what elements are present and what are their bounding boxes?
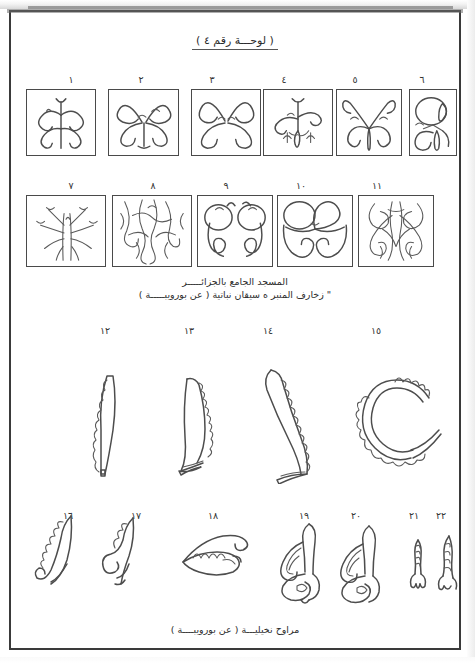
scan-edge-right (467, 0, 475, 663)
ornament-number-7: ٧ (68, 180, 73, 191)
ornament-box-9 (197, 195, 273, 267)
ornament-box-8 (112, 195, 192, 267)
scan-edge-bottom (0, 657, 475, 663)
small-number-18: ١٨ (208, 510, 218, 521)
ornament-box-5 (336, 89, 402, 156)
ornament-number-3: ٣ (209, 74, 214, 85)
ornament-box-10 (277, 195, 353, 267)
leaf-number-13: ١٣ (184, 325, 194, 336)
page-border-frame: ( لوحـــة رقم ٤ ) ١ ٢ ٣ ٤ ٥ ٦ (9, 10, 461, 650)
leaf-motif-15 (355, 372, 443, 472)
ornament-number-11: ١١ (372, 180, 382, 191)
ornament-box-6 (409, 89, 457, 156)
ornament-box-7 (26, 195, 106, 267)
plate-caption-line-2: " زخارف المنبر ﻩ سيقان نباتية ( عن بوروي… (11, 289, 459, 300)
ornament-box-1 (26, 89, 96, 156)
leaf-motif-14 (251, 362, 321, 484)
leaf-motif-12 (83, 370, 129, 480)
small-motif-20 (333, 520, 389, 606)
ornament-number-10: ١٠ (296, 180, 306, 191)
ornament-number-2: ٢ (138, 74, 143, 85)
plate-caption-line-1: المسجد الجامع بالجزائـــــر (11, 276, 459, 287)
small-motif-16 (33, 512, 81, 592)
ornament-number-5: ٥ (352, 74, 357, 85)
small-motif-18 (179, 530, 255, 582)
small-number-21: ٢١ (409, 510, 419, 521)
small-motif-19 (275, 520, 331, 606)
ornament-box-11 (358, 195, 434, 267)
plate-title: ( لوحـــة رقم ٤ ) (11, 34, 459, 50)
small-number-22: ٢٢ (436, 510, 446, 521)
ornament-box-3 (191, 89, 261, 156)
leaf-motif-13 (169, 367, 225, 482)
ornament-number-8: ٨ (150, 180, 155, 191)
leaf-number-14: ١٤ (263, 325, 273, 336)
ornament-box-4 (263, 89, 333, 156)
small-motif-21 (407, 536, 429, 594)
ornament-box-2 (108, 89, 179, 156)
small-motif-22 (435, 532, 459, 594)
ornament-number-4: ٤ (281, 74, 286, 85)
bottom-caption: مراوح نخيليـــة ( عن بورويبــــة ) (11, 624, 459, 635)
leaf-number-15: ١٥ (371, 325, 381, 336)
small-motif-17 (99, 514, 143, 592)
ornament-number-1: ١ (68, 74, 73, 85)
scanned-page: ( لوحـــة رقم ٤ ) ١ ٢ ٣ ٤ ٥ ٦ (0, 0, 475, 663)
plate-title-text: ( لوحـــة رقم ٤ ) (192, 34, 278, 50)
leaf-number-12: ١٢ (100, 325, 110, 336)
ornament-number-9: ٩ (223, 180, 228, 191)
ornament-number-6: ٦ (419, 74, 424, 85)
